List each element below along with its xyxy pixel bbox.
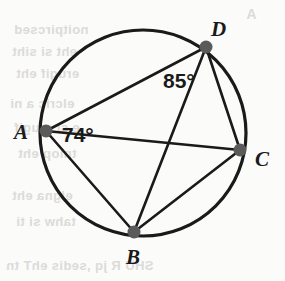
angle-at-A: 74°	[62, 123, 94, 146]
geometry-figure: Anoitpircsedeht si sihterugif ehtelcric …	[0, 0, 285, 281]
vertex-label-b: B	[125, 245, 140, 269]
vertex-labels-group: ABCD	[12, 17, 270, 269]
vertex-dot-c	[234, 144, 247, 157]
circle-diagram-svg: ABCD 74°85°	[0, 0, 285, 281]
chord-dc	[206, 47, 240, 150]
vertex-dot-a	[40, 125, 53, 138]
vertex-label-d: D	[210, 17, 226, 41]
angle-at-D: 85°	[163, 69, 195, 92]
vertex-label-c: C	[255, 147, 270, 171]
vertex-label-a: A	[12, 120, 28, 144]
chord-ab	[46, 131, 134, 232]
vertex-dot-b	[128, 226, 141, 239]
angle-labels-group: 74°85°	[62, 69, 195, 146]
vertex-dot-d	[200, 41, 213, 54]
